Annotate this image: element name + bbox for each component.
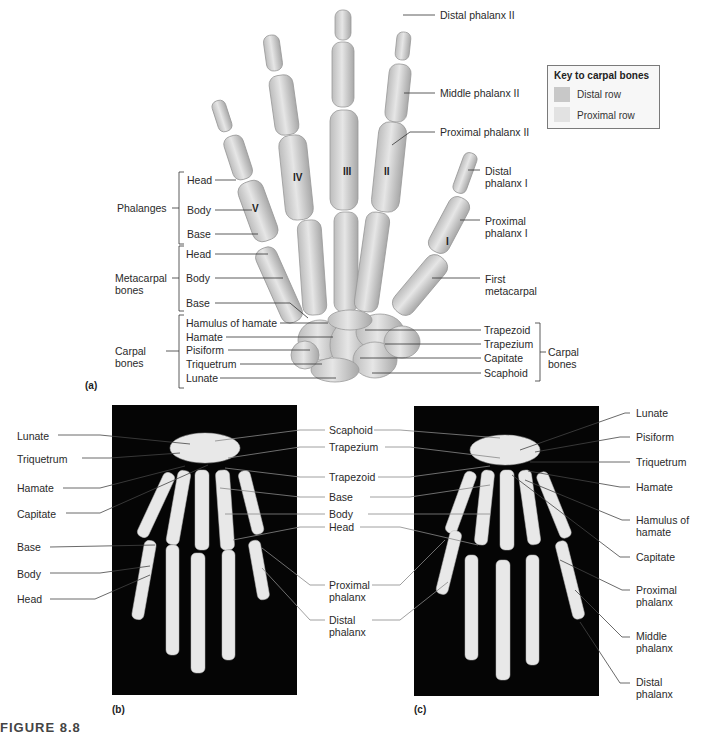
c-label-hamulus-of-hamate: Hamulus of hamate (636, 514, 691, 538)
b-label-center-head: Head (329, 521, 354, 533)
b-label-center-body: Body (329, 508, 353, 520)
b-label-scaphoid: Scaphoid (329, 424, 373, 436)
c-label-hamate: Hamate (636, 481, 673, 493)
b-label-base: Base (17, 541, 41, 553)
c-label-pisiform: Pisiform (636, 431, 674, 443)
c-label-distal-phalanx: Distal phalanx (636, 676, 686, 700)
b-label-head: Head (17, 593, 42, 605)
b-label-trapezium: Trapezium (329, 441, 378, 453)
c-label-lunate: Lunate (636, 407, 668, 419)
b-label-capitate: Capitate (17, 508, 56, 520)
panel-b-bones (131, 433, 270, 673)
b-label-distal-phalanx: Distal phalanx (329, 614, 375, 638)
b-label-center-base: Base (329, 491, 353, 503)
b-label-trapezoid: Trapezoid (329, 471, 375, 483)
b-label-body: Body (17, 568, 41, 580)
panel-c-tag: (c) (414, 704, 426, 715)
panel-c-bones (435, 435, 585, 680)
c-label-middle-phalanx: Middle phalanx (636, 630, 686, 654)
b-label-hamate: Hamate (17, 482, 54, 494)
b-label-proximal-phalanx: Proximal phalanx (329, 579, 375, 603)
panel-b-tag: (b) (112, 704, 125, 715)
c-label-capitate: Capitate (636, 551, 675, 563)
c-label-triquetrum: Triquetrum (636, 456, 686, 468)
b-label-lunate: Lunate (17, 430, 49, 442)
figure-caption: FIGURE 8.8 (0, 720, 81, 735)
b-label-triquetrum: Triquetrum (17, 453, 67, 465)
c-label-proximal-phalanx: Proximal phalanx (636, 584, 686, 608)
